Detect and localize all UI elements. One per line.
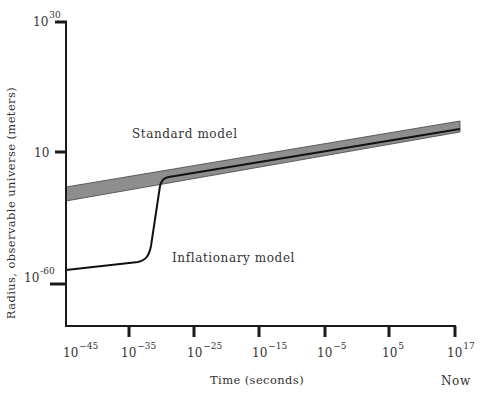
y-tick-label-minus60: 10-60 bbox=[24, 266, 55, 285]
inflationary-model-label: Inflationary model bbox=[172, 251, 295, 265]
y-axis-title: Radius, observable universe (meters) bbox=[4, 87, 18, 319]
x-tick-label-17: 1017 bbox=[447, 341, 475, 360]
x-tick-label-minus25: 10−25 bbox=[187, 341, 223, 360]
y-tick-label-1: 10 bbox=[34, 146, 49, 160]
x-tick-label-minus5: 10−5 bbox=[317, 341, 347, 360]
y-tick-label-30: 1030 bbox=[33, 10, 61, 29]
inflationary-model-line bbox=[66, 129, 460, 270]
x-tick-label-minus45: 10−45 bbox=[63, 341, 99, 360]
standard-model-label: Standard model bbox=[132, 127, 238, 141]
x-tick-label-minus15: 10−15 bbox=[252, 341, 288, 360]
x-tick-label-5: 105 bbox=[382, 341, 404, 360]
x-tick-label-minus35: 10−35 bbox=[121, 341, 157, 360]
x-axis-title: Time (seconds) bbox=[210, 373, 304, 387]
chart: 1030 10 10-60 10−45 10−35 10−25 10−15 10… bbox=[0, 0, 480, 397]
now-label: Now bbox=[441, 374, 471, 388]
